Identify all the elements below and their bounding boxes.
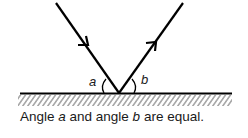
angle-a-arc [102, 79, 106, 93]
reflected-ray [119, 3, 183, 93]
caption-var-b: b [133, 109, 141, 124]
incident-ray [56, 3, 119, 93]
caption-text-2: and angle [66, 109, 133, 124]
caption-var-a: a [58, 109, 66, 124]
angle-b-arc [132, 79, 136, 93]
mirror-hatching [18, 95, 232, 106]
angle-b-label: b [141, 72, 148, 87]
caption-text-1: Angle [20, 109, 58, 124]
caption: Angle a and angle b are equal. [20, 109, 204, 124]
angle-a-label: a [89, 74, 96, 89]
caption-text-3: are equal. [140, 109, 204, 124]
